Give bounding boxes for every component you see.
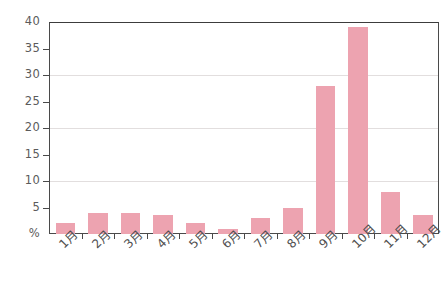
y-axis-tick-label: 25 — [25, 96, 40, 108]
bar — [316, 86, 336, 234]
x-axis-labels: 1月2月3月4月5月6月7月8月9月10月11月12月 — [49, 234, 445, 292]
y-axis-tick-label: 35 — [25, 43, 40, 55]
y-axis: 403530252015105% — [0, 0, 49, 260]
y-axis-tick-label: 10 — [25, 175, 40, 187]
bar-series — [49, 22, 439, 234]
y-axis-tick-label: 40 — [25, 16, 40, 28]
y-axis-tick-label: 20 — [25, 122, 40, 134]
y-axis-tick-label: 5 — [32, 202, 40, 214]
y-axis-tick-label: % — [29, 228, 40, 240]
bar-chart: 403530252015105% 1月2月3月4月5月6月7月8月9月10月11… — [0, 0, 446, 293]
y-axis-tick-label: 15 — [25, 149, 40, 161]
bar — [348, 27, 368, 234]
y-axis-tick-label: 30 — [25, 69, 40, 81]
